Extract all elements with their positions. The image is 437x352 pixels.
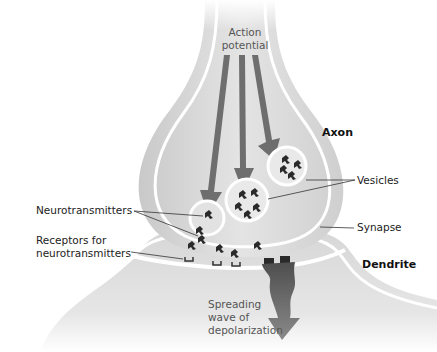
label-synapse: Synapse (357, 221, 402, 234)
label-action-potential-line2: potential (218, 39, 272, 52)
label-neurotransmitters: Neurotransmitters (36, 204, 132, 217)
label-receptors-line1: Receptors for (36, 234, 131, 247)
label-spreading-line3: depolarization (208, 324, 283, 337)
label-action-potential-line1: Action (218, 26, 272, 39)
label-vesicles: Vesicles (357, 174, 399, 187)
label-receptors-line2: neurotransmitters (36, 247, 131, 260)
label-spreading-wave: Spreading wave of depolarization (208, 298, 283, 337)
label-axon: Axon (322, 126, 353, 139)
label-dendrite: Dendrite (362, 258, 416, 271)
label-spreading-line2: wave of (208, 311, 283, 324)
label-action-potential: Action potential (218, 26, 272, 52)
label-spreading-line1: Spreading (208, 298, 283, 311)
label-receptors: Receptors for neurotransmitters (36, 234, 131, 260)
